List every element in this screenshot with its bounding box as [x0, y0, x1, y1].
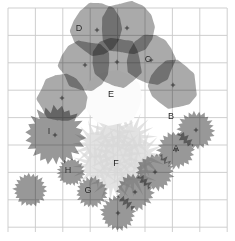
figure-canvas: DCBIHGAFE [0, 0, 235, 241]
plant-label-h: H [65, 166, 72, 175]
plant-label-d: D [76, 24, 83, 33]
plant-label-e: E [108, 90, 114, 99]
vegetation-plot-svg [0, 0, 235, 241]
plant-label-i: I [48, 127, 51, 136]
plant-label-b: B [168, 112, 174, 121]
plant-label-a: A [173, 144, 179, 153]
plant-label-c: C [145, 55, 152, 64]
plant-label-g: G [84, 186, 91, 195]
plant-label-f: F [113, 159, 119, 168]
plant-unlabeled [12, 173, 47, 207]
